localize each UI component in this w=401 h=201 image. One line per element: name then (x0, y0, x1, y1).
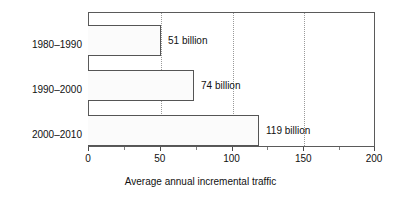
bar-1990-2000 (88, 70, 194, 101)
xtick-label: 100 (223, 153, 240, 164)
bar-1980-1990 (88, 25, 161, 56)
xtick-minor (196, 147, 197, 150)
xtick-minor (124, 147, 125, 150)
x-axis-title: Average annual incremental traffic (0, 176, 401, 188)
category-label: 1990–2000 (2, 85, 82, 95)
bar-value-label: 51 billion (168, 36, 207, 46)
xtick-major (232, 147, 233, 151)
xtick-major (160, 147, 161, 151)
xtick-label: 50 (154, 153, 165, 164)
xtick-major (303, 147, 304, 151)
category-axis: 1980–1990 1990–2000 2000–2010 (0, 12, 82, 147)
category-label: 2000–2010 (2, 130, 82, 140)
bar-2000-2010 (88, 115, 259, 146)
xtick-minor (267, 147, 268, 150)
category-label: 1980–1990 (2, 40, 82, 50)
xtick-major (374, 147, 375, 151)
bar-value-label: 74 billion (201, 81, 240, 91)
xtick-label: 0 (85, 153, 91, 164)
xtick-label: 200 (366, 153, 383, 164)
xtick-label: 150 (295, 153, 312, 164)
xtick-minor (339, 147, 340, 150)
x-axis: 0 50 100 150 200 (88, 147, 375, 177)
bars-layer: 51 billion 74 billion 119 billion (88, 12, 375, 147)
bar-chart: 1980–1990 1990–2000 2000–2010 51 billion… (0, 0, 401, 201)
bar-value-label: 119 billion (266, 126, 310, 136)
xtick-major (88, 147, 89, 151)
